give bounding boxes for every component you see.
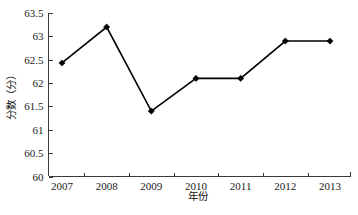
x-axis-title: 年份 bbox=[188, 190, 209, 202]
chart-figure: 6060.56161.56262.56363.5 分数（分） 200720082… bbox=[0, 0, 358, 215]
y-tick-label: 61.5 bbox=[24, 100, 44, 112]
y-tick-label: 62.5 bbox=[24, 54, 44, 66]
x-tick-label: 2011 bbox=[230, 180, 252, 192]
x-tick-label: 2007 bbox=[51, 180, 74, 192]
x-tick-label: 2009 bbox=[140, 180, 163, 192]
y-tick-label: 63.5 bbox=[24, 7, 44, 19]
y-tick-label: 60.5 bbox=[24, 147, 44, 159]
cropped-caption-sliver: · · · · · · · · · · · · · · · · · · · · … bbox=[0, 208, 358, 215]
x-tick-label: 2008 bbox=[96, 180, 119, 192]
x-tick-label: 2013 bbox=[319, 180, 342, 192]
y-tick-label: 63 bbox=[33, 30, 45, 42]
x-tick-label: 2012 bbox=[274, 180, 296, 192]
y-tick-label: 60 bbox=[33, 171, 45, 183]
y-axis-title: 分数（分） bbox=[5, 70, 17, 120]
y-tick-label: 62 bbox=[33, 77, 44, 89]
y-tick-label: 61 bbox=[33, 124, 44, 136]
cropped-caption-text: · · · · · · · · · · · · · · · · · · · · … bbox=[0, 208, 358, 210]
line-chart: 6060.56161.56262.56363.5 分数（分） 200720082… bbox=[0, 0, 358, 215]
